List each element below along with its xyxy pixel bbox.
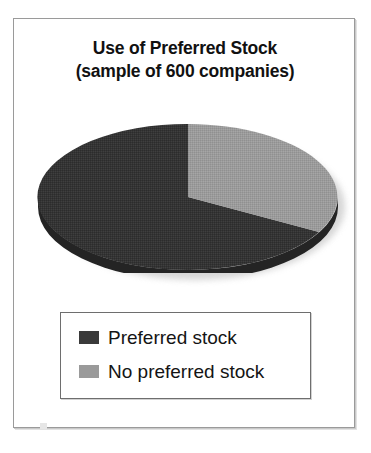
legend-swatch-preferred-stock — [79, 331, 99, 344]
figure-frame: Use of Preferred Stock (sample of 600 co… — [13, 18, 355, 428]
legend-swatch-no-preferred-stock — [79, 365, 99, 378]
chart-legend: Preferred stock No preferred stock — [60, 312, 311, 399]
chart-title: Use of Preferred Stock (sample of 600 co… — [14, 37, 356, 83]
legend-item-preferred-stock: Preferred stock — [79, 326, 237, 349]
chart-title-line-1: Use of Preferred Stock — [14, 37, 356, 60]
chart-title-line-2: (sample of 600 companies) — [14, 60, 356, 83]
pie-chart-plot-area — [14, 111, 356, 291]
scan-artifact — [40, 423, 47, 429]
legend-label-no-preferred-stock: No preferred stock — [108, 360, 264, 383]
legend-label-preferred-stock: Preferred stock — [108, 326, 237, 349]
legend-item-no-preferred-stock: No preferred stock — [79, 360, 264, 383]
pie-chart — [37, 121, 339, 273]
